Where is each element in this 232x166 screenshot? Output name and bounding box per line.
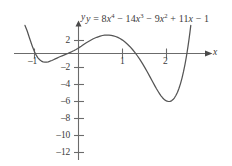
term2-exponent: 3 (140, 12, 143, 19)
operator-1: − (117, 13, 123, 24)
y-tick-label-neg4: –4 (52, 80, 70, 90)
x-axis-label: x (213, 48, 217, 58)
y-axis (76, 21, 82, 161)
y-tick-label-neg2: –2 (52, 63, 70, 73)
x-axis (14, 50, 213, 56)
term4-coefficient: 11 (179, 13, 189, 24)
x-tick-label-2: 2 (163, 57, 168, 67)
term3-exponent: 2 (164, 12, 167, 19)
equation-equals: = (93, 13, 99, 24)
equation-annotation: y = 8x4 − 14x3 − 9x2 + 11x − 1 (86, 14, 209, 24)
y-tick-label-neg12: –12 (49, 148, 70, 158)
x-tick-label-neg1: –1 (28, 57, 37, 67)
equation-lhs: y (86, 13, 91, 24)
y-tick-label-neg8: –8 (52, 114, 70, 124)
y-axis-label: y (81, 13, 85, 23)
term4-variable: x (189, 13, 194, 24)
y-tick-label-2: 2 (52, 36, 70, 46)
term1-exponent: 4 (111, 12, 114, 19)
y-tick-label-neg10: –10 (49, 131, 70, 141)
operator-4: − (196, 13, 202, 24)
term5-constant: 1 (204, 13, 209, 24)
plot-canvas (0, 0, 232, 166)
term2-coefficient: 14 (126, 13, 136, 24)
function-graph-figure: y = 8x4 − 14x3 − 9x2 + 11x − 1 x y –1 1 … (0, 0, 232, 166)
operator-3: + (170, 13, 176, 24)
y-tick-label-neg6: –6 (52, 97, 70, 107)
operator-2: − (146, 13, 152, 24)
x-tick-label-1: 1 (120, 57, 125, 67)
